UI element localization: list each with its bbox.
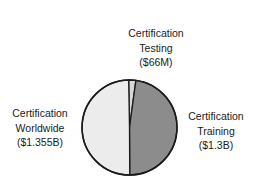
label-worldwide-subtitle: Worldwide	[0, 121, 80, 136]
label-training-value: ($1.3B)	[176, 138, 256, 153]
label-certification-testing: Certification Testing ($66M)	[108, 26, 204, 70]
label-training-subtitle: Training	[176, 124, 256, 139]
label-testing-value: ($66M)	[108, 55, 204, 70]
label-worldwide-value: ($1.355B)	[0, 135, 80, 150]
label-testing-title: Certification	[108, 26, 204, 41]
pie-slice-certification-worldwide	[82, 80, 130, 175]
pie	[82, 80, 177, 175]
pie-slice-certification-training	[130, 80, 178, 175]
label-worldwide-title: Certification	[0, 106, 80, 121]
label-training-title: Certification	[176, 109, 256, 124]
label-testing-subtitle: Testing	[108, 41, 204, 56]
label-certification-training: Certification Training ($1.3B)	[176, 109, 256, 153]
label-certification-worldwide: Certification Worldwide ($1.355B)	[0, 106, 80, 150]
